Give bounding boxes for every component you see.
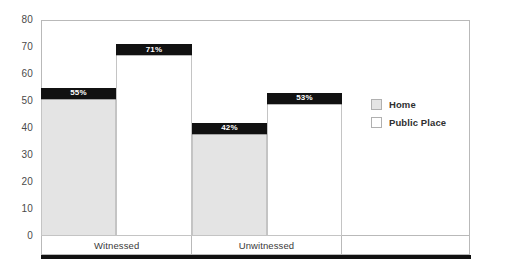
bar-body xyxy=(41,88,116,237)
bar-unwitnessed-public-place[interactable]: 53% xyxy=(267,93,342,236)
bar-unwitnessed-home[interactable]: 42% xyxy=(192,123,267,236)
bar-body xyxy=(267,93,342,236)
x-axis-category-band: Witnessed Unwitnessed xyxy=(41,236,470,255)
bar-value-label: 71% xyxy=(146,46,163,54)
legend-item-public-place[interactable]: Public Place xyxy=(371,113,467,131)
legend-label: Home xyxy=(389,99,416,110)
legend-swatch-home xyxy=(371,99,382,110)
bar-value-label: 42% xyxy=(221,124,238,132)
x-axis-category-unwitnessed: Unwitnessed xyxy=(192,236,341,254)
y-axis: 80 70 60 50 40 30 20 10 0 xyxy=(0,20,41,236)
x-axis-category-empty xyxy=(342,236,469,254)
legend: Home Public Place xyxy=(371,95,467,131)
y-tick-label: 50 xyxy=(21,96,33,106)
bar-value-label: 55% xyxy=(70,89,87,97)
legend-swatch-public-place xyxy=(371,117,382,128)
y-tick-label: 40 xyxy=(21,123,33,133)
bar-chart-figure: 80 70 60 50 40 30 20 10 0 55% 71% 42% xyxy=(0,0,508,274)
y-tick-label: 80 xyxy=(21,15,33,25)
bar-value-label: 53% xyxy=(296,94,313,102)
y-tick-label: 70 xyxy=(21,42,33,52)
y-tick-label: 10 xyxy=(21,204,33,214)
y-tick-label: 0 xyxy=(27,231,33,241)
bar-value-label-band: 55% xyxy=(41,88,116,99)
legend-item-home[interactable]: Home xyxy=(371,95,467,113)
x-axis-category-witnessed: Witnessed xyxy=(42,236,192,254)
bar-body xyxy=(192,123,267,236)
bar-value-label-band: 42% xyxy=(192,123,267,134)
y-tick-label: 60 xyxy=(21,69,33,79)
bar-value-label-band: 71% xyxy=(116,44,192,55)
y-tick-label: 20 xyxy=(21,177,33,187)
legend-label: Public Place xyxy=(389,117,446,128)
bar-witnessed-public-place[interactable]: 71% xyxy=(116,44,192,236)
bar-value-label-band: 53% xyxy=(267,93,342,104)
bar-witnessed-home[interactable]: 55% xyxy=(41,88,116,237)
y-tick-label: 30 xyxy=(21,150,33,160)
bar-body xyxy=(116,44,192,236)
x-axis-baseline xyxy=(41,255,471,259)
